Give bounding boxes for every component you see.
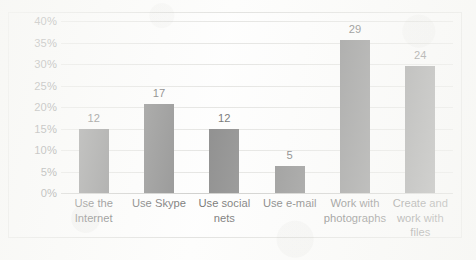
bar[interactable]: 12 — [79, 129, 109, 193]
plot-area: 12171252924 — [61, 21, 453, 193]
y-axis-tick-label: 5% — [41, 166, 57, 178]
y-axis-tick-label: 15% — [34, 123, 57, 135]
y-axis-tick-label: 0% — [41, 187, 57, 199]
y-axis-tick-label: 30% — [34, 58, 57, 70]
bar[interactable]: 5 — [275, 166, 305, 193]
bar-value-label: 29 — [349, 23, 361, 35]
bar-value-label: 17 — [153, 87, 165, 99]
y-axis: 0%5%10%15%20%25%30%35%40% — [15, 21, 57, 193]
bar[interactable]: 29 — [340, 40, 370, 193]
y-axis-tick-label: 10% — [34, 144, 57, 156]
bar-slot: 12 — [61, 21, 126, 193]
bar[interactable]: 17 — [144, 104, 174, 193]
bar-series: 12171252924 — [61, 21, 453, 193]
bar-slot: 12 — [192, 21, 257, 193]
bar-value-label: 12 — [87, 112, 99, 124]
x-axis-category-label: Use Skype — [126, 196, 191, 236]
axis-baseline — [61, 193, 453, 194]
bar-value-label: 5 — [287, 149, 293, 161]
bar-slot: 24 — [388, 21, 453, 193]
x-axis-category-labels: Use the InternetUse SkypeUse social nets… — [61, 196, 453, 236]
y-axis-tick-label: 40% — [34, 15, 57, 27]
y-axis-tick-label: 35% — [34, 37, 57, 49]
y-axis-tick-label: 20% — [34, 101, 57, 113]
bar-slot: 5 — [257, 21, 322, 193]
x-axis-category-label: Use social nets — [192, 196, 257, 236]
bar-slot: 17 — [126, 21, 191, 193]
x-axis-category-label: Use the Internet — [61, 196, 126, 236]
bar-value-label: 12 — [218, 112, 230, 124]
x-axis-category-label: Work with photographs — [322, 196, 387, 236]
bar[interactable]: 12 — [209, 129, 239, 194]
x-axis-category-label: Use e-mail — [257, 196, 322, 236]
bar-slot: 29 — [322, 21, 387, 193]
bar-value-label: 24 — [414, 49, 426, 61]
chart-plot-wrapper: 0%5%10%15%20%25%30%35%40% 12171252924 Us… — [9, 13, 463, 239]
chart-container: 0%5%10%15%20%25%30%35%40% 12171252924 Us… — [8, 12, 462, 238]
x-axis-category-label: Create and work with files — [388, 196, 453, 236]
y-axis-tick-label: 25% — [34, 80, 57, 92]
bar[interactable]: 24 — [405, 66, 435, 193]
